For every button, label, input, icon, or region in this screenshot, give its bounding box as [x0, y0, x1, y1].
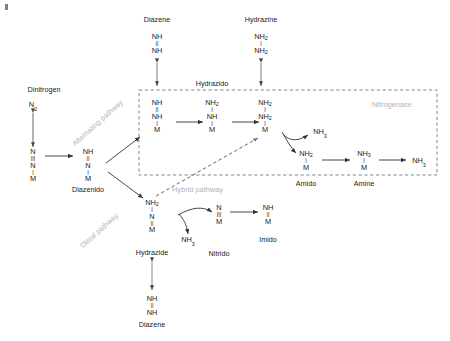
label-hydrazine: Hydrazine	[245, 16, 277, 23]
species-imido: NH||M	[263, 204, 274, 226]
label-amido: Amido	[296, 180, 316, 187]
label-hydrazide: Hydrazide	[136, 249, 168, 256]
label-diazene-bottom: Diazene	[139, 321, 165, 328]
byproduct-nh3-terminal: NH3	[412, 157, 426, 167]
label-distal-pathway: Distal pathway	[79, 212, 120, 250]
species-hydrazido-a: NH||NH|M	[152, 99, 163, 135]
label-alternating-pathway: Alternating pathway	[71, 98, 124, 147]
species-n2-bound: N|||N|M	[30, 148, 36, 184]
label-nitrido: Nitrido	[209, 250, 230, 257]
arrow-nh3-distal-release-curve	[179, 214, 188, 234]
label-dinitrogen: Dinitrogen	[28, 86, 61, 93]
page-corner-artifact	[5, 4, 8, 10]
label-diazene-top: Diazene	[144, 16, 170, 23]
label-nitrogenase: Nitrogenase	[372, 101, 412, 108]
arrow-layer	[0, 0, 450, 341]
arrow-diazenido-to-hydrazido	[106, 137, 140, 163]
species-dinitrogen-free: N2	[29, 101, 37, 111]
species-hydrazide: NH2|N||M	[145, 199, 159, 235]
arrow-hydrazide-to-nitrido-curve	[178, 208, 212, 215]
arrow-diazenido-to-hydrazide	[108, 172, 143, 198]
species-nitrido: N|||M	[216, 204, 222, 226]
arrow-nh3-release-curve	[283, 134, 308, 140]
label-hydrazido: Hydrazido	[196, 80, 228, 87]
byproduct-nh3-alternating: NH3	[313, 128, 327, 138]
species-hydrazine: NH2|NH2	[254, 33, 268, 55]
species-hydrazido-b: NH2|NH|M	[205, 99, 219, 135]
species-amido: NH2|M	[299, 150, 313, 172]
species-amine: NH3|M	[357, 150, 371, 172]
label-hybrid-pathway: Hybrid pathway	[172, 186, 223, 193]
diagram-canvas: Dinitrogen N2 N|||N|M NH||N|M Diazenido …	[0, 0, 450, 341]
byproduct-nh3-distal: NH3	[181, 236, 195, 246]
species-hydrazido-c: NH2|NH2|M	[258, 99, 272, 135]
label-imido: Imido	[259, 236, 277, 243]
species-diazene-top: NH||NH	[152, 33, 163, 55]
species-diazenido: NH||N|M	[83, 148, 94, 184]
label-amine: Amine	[354, 180, 374, 187]
arrow-hydrazido-to-amido-curve	[282, 132, 296, 153]
species-diazene-bottom: NH||NH	[147, 295, 158, 317]
label-diazenido: Diazenido	[72, 186, 104, 193]
